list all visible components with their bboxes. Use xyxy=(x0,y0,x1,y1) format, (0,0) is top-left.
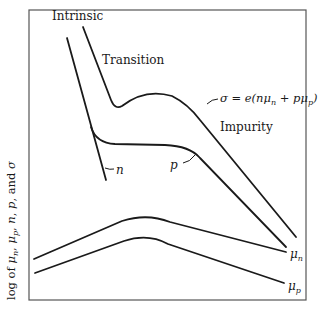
diagram-canvas xyxy=(0,0,318,311)
mu-p-sub: p xyxy=(296,286,301,295)
y-label-mu-1: μ xyxy=(4,256,18,263)
mu-n-curve xyxy=(34,217,286,259)
n-curve xyxy=(67,38,106,180)
mu-n-label: μn xyxy=(290,248,303,263)
semiconductor-temperature-diagram: Intrinsic Transition Impurity n p σ = e(… xyxy=(0,0,318,311)
p-curve xyxy=(91,127,286,247)
y-label-p: p xyxy=(4,202,18,209)
sigma-eq-mid: + pμ xyxy=(276,91,308,105)
y-label-sep-3: , xyxy=(4,209,18,216)
sigma-eq-rhs: ) xyxy=(313,91,318,105)
p-leader xyxy=(183,155,195,163)
sigma-leader xyxy=(207,99,218,104)
impurity-label: Impurity xyxy=(220,121,273,133)
y-label-mu-2: μ xyxy=(4,236,18,243)
mu-n-symbol: μ xyxy=(290,247,298,261)
y-label-prefix: log of xyxy=(4,264,18,300)
y-label-sub-n: n xyxy=(11,251,20,256)
sigma-equation: σ = e(nμn + pμp) xyxy=(220,93,318,107)
y-label-sep-2: , xyxy=(4,224,18,231)
y-label-n: n xyxy=(4,216,18,223)
y-label-sub-p: p xyxy=(11,231,20,236)
mu-p-symbol: μ xyxy=(288,279,296,293)
y-label-and: , and xyxy=(4,169,18,202)
y-axis-label: log of μn, μp, n, p, and σ xyxy=(4,161,20,300)
n-label: n xyxy=(116,164,124,176)
sigma-eq-lhs: σ = e(nμ xyxy=(220,91,271,105)
p-label: p xyxy=(170,159,178,171)
mu-p-curve xyxy=(35,238,284,283)
n-leader xyxy=(105,168,114,169)
transition-label: Transition xyxy=(102,54,164,66)
mu-p-label: μp xyxy=(288,280,301,295)
y-label-sep-1: , xyxy=(4,244,18,251)
mu-n-sub: n xyxy=(298,254,303,263)
y-label-sigma: σ xyxy=(4,161,18,169)
intrinsic-label: Intrinsic xyxy=(52,10,103,22)
